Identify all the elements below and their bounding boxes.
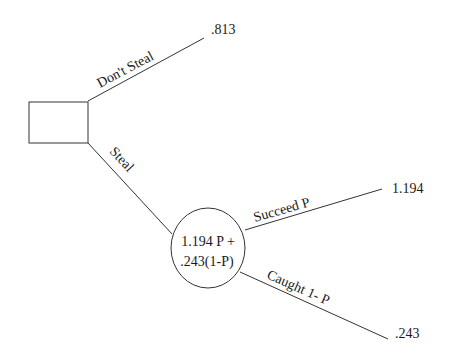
chance-node-value-line2: .243(1-P) [180,254,234,270]
dont-steal-edge [88,38,204,101]
caught-edge [240,272,388,339]
chance-node-value-line1: 1.194 P + [181,234,235,249]
dont-steal-payoff: .813 [211,22,236,37]
steal-label: Steal [107,144,137,175]
decision-tree-diagram: Don't Steal .813 Steal 1.194 P + .243(1-… [0,0,451,363]
caught-payoff: .243 [395,326,420,341]
decision-node [29,102,88,143]
succeed-label: Succeed P [252,194,312,224]
succeed-payoff: 1.194 [392,181,424,196]
